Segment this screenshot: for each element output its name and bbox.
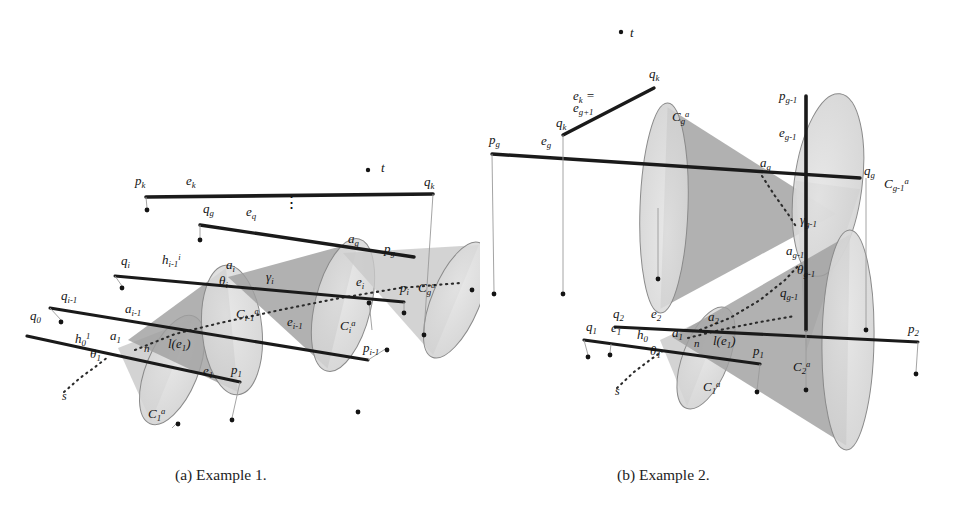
node-dot [914,372,919,377]
label-n: n [694,337,700,349]
label-qk-top: qk [649,66,661,83]
leader-line [584,340,588,355]
label-p2: p2 [907,321,920,338]
leader-line [916,342,918,372]
label-Cgm1a: Cg-1a [884,176,909,194]
label-t: t [630,25,634,40]
label-theta1: θ1 [650,343,661,360]
node-dot [656,277,661,282]
label-pgm1: pg-1 [778,88,797,105]
label-qg: qg [864,163,876,180]
node-dot [864,328,869,333]
caption-example-2: (b) Example 2. [617,466,710,484]
node-dot [608,353,613,358]
label-anchor-dot [619,30,623,34]
label-le1: l(e1) [713,333,735,350]
panel-example-2: tqkek =eg+1qkpgegCgapg-1eg-1agqgCg-1aγg-… [0,0,958,460]
label-eg: eg [541,133,552,150]
label-a1: a1 [672,325,683,342]
node-dot [804,388,809,393]
cone-group-b [636,89,876,450]
node-dot [492,292,497,297]
leader-line [492,154,494,292]
leader-line [610,344,611,353]
label-egm1: eg-1 [779,125,797,142]
label-s: s [615,384,620,398]
label-q1: q1 [586,319,597,336]
node-dot [755,390,760,395]
node-dot [586,355,591,360]
label-pg: pg [488,132,501,149]
caption-example-1: (a) Example 1. [175,466,267,484]
node-dot [561,292,566,297]
label-qk-low: qk [556,115,568,132]
figure-root: tpkekqkqgeqagpgqihi-1iaiγiθieipiCgaqi-1a… [0,0,958,517]
label-ag: ag [760,155,772,172]
